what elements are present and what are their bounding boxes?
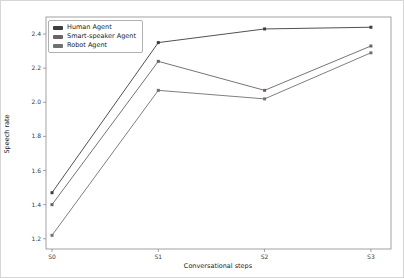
x-tick-label: S1 [154, 253, 162, 260]
legend-item: Robot Agent [53, 42, 136, 49]
y-axis-label: Speech rate [3, 114, 11, 153]
x-tick-label: S2 [261, 253, 269, 260]
data-point-marker [157, 89, 160, 92]
data-point-marker [369, 26, 372, 29]
legend-swatch-icon [53, 26, 63, 30]
data-point-marker [157, 60, 160, 63]
data-point-marker [51, 203, 54, 206]
legend-item: Human Agent [53, 24, 136, 31]
y-tick-label: 2.0 [31, 98, 41, 105]
y-tick-label: 1.2 [31, 235, 41, 242]
legend-swatch-icon [53, 44, 63, 48]
data-point-marker [157, 41, 160, 44]
y-tick-label: 2.2 [31, 64, 41, 71]
data-point-marker [51, 191, 54, 194]
chart-legend: Human AgentSmart-speaker AgentRobot Agen… [48, 20, 143, 53]
data-point-marker [369, 45, 372, 48]
data-point-marker [369, 51, 372, 54]
legend-swatch-icon [53, 35, 63, 39]
legend-item: Smart-speaker Agent [53, 33, 136, 40]
data-point-marker [51, 234, 54, 237]
y-tick-label: 1.6 [31, 167, 41, 174]
legend-label: Robot Agent [67, 42, 107, 49]
data-point-marker [263, 97, 266, 100]
series-line [52, 53, 371, 236]
line-chart-figure: 1.21.41.61.82.02.22.4S0S1S2S3 Conversati… [0, 0, 404, 278]
x-tick-label: S0 [48, 253, 56, 260]
x-tick-label: S3 [367, 253, 375, 260]
legend-label: Smart-speaker Agent [67, 33, 136, 40]
y-tick-label: 1.8 [31, 132, 41, 139]
y-tick-label: 1.4 [31, 201, 41, 208]
legend-label: Human Agent [67, 24, 112, 31]
data-point-marker [263, 89, 266, 92]
data-point-marker [263, 27, 266, 30]
y-tick-label: 2.4 [31, 30, 41, 37]
x-axis-label: Conversational steps [184, 262, 253, 270]
